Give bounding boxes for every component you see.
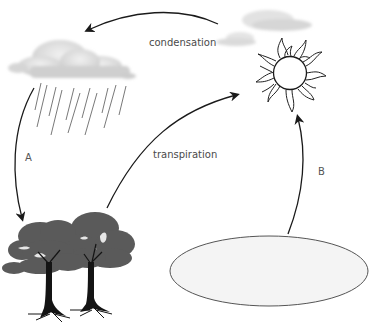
trees-icon (2, 212, 135, 322)
label-b: B (318, 167, 325, 177)
clouds-near-sun-icon (216, 10, 312, 46)
arrow-b (288, 118, 303, 234)
sun-icon (256, 38, 326, 112)
diagram-canvas (0, 0, 372, 330)
condensation-arrow (88, 13, 218, 30)
water-body-icon (170, 236, 368, 306)
rain-cloud-icon (8, 40, 136, 79)
label-a: A (25, 153, 32, 163)
rain-icon (35, 83, 126, 135)
water-cycle-diagram: condensation transpiration A B (0, 0, 372, 330)
transpiration-label: transpiration (153, 150, 217, 160)
condensation-label: condensation (149, 38, 216, 48)
